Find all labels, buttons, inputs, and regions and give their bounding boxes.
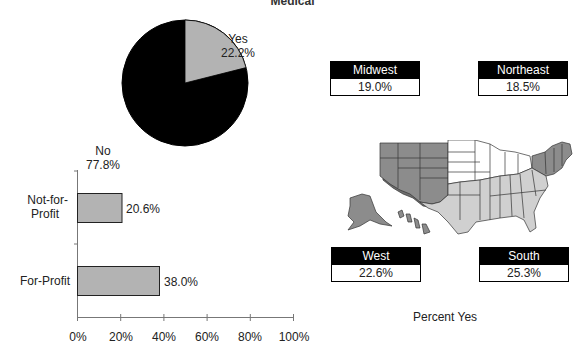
- bar-chart: [60, 165, 300, 325]
- category-line1: Not-for-: [14, 193, 68, 207]
- region-box-south: South 25.3%: [479, 247, 569, 282]
- pie-no-text: No: [78, 144, 128, 158]
- bar-value-for-profit: 38.0%: [164, 275, 198, 289]
- x-tick-60: 60%: [195, 330, 219, 344]
- map-caption: Percent Yes: [413, 310, 477, 324]
- region-value: 18.5%: [479, 79, 567, 95]
- map-state-alaska: [348, 194, 392, 230]
- region-name: South: [480, 248, 568, 265]
- bar-category-for-profit: For-Profit: [10, 274, 70, 288]
- region-name: Midwest: [331, 62, 419, 79]
- region-value: 25.3%: [480, 265, 568, 281]
- bar-value-not-for-profit: 20.6%: [126, 202, 160, 216]
- category-line2: Profit: [14, 207, 68, 221]
- bar-category-not-for-profit: Not-for- Profit: [14, 193, 68, 221]
- bar-for-profit: [78, 267, 160, 296]
- pie-yes-label: Yes 22.2%: [213, 32, 263, 60]
- x-tick-0: 0%: [69, 330, 86, 344]
- region-name: West: [332, 248, 420, 265]
- x-tick-40: 40%: [152, 330, 176, 344]
- chart-title: Medical: [0, 0, 585, 8]
- region-value: 19.0%: [331, 79, 419, 95]
- x-tick-100: 100%: [279, 330, 310, 344]
- bar-not-for-profit: [78, 194, 123, 223]
- x-tick-20: 20%: [109, 330, 133, 344]
- region-box-northeast: Northeast 18.5%: [478, 61, 568, 96]
- pie-yes-value: 22.2%: [213, 46, 263, 60]
- map-region-northeast: [532, 142, 572, 176]
- us-map: [340, 140, 580, 240]
- x-tick-80: 80%: [238, 330, 262, 344]
- region-value: 22.6%: [332, 265, 420, 281]
- map-region-west: [380, 143, 448, 204]
- region-name: Northeast: [479, 62, 567, 79]
- region-box-midwest: Midwest 19.0%: [330, 61, 420, 96]
- region-box-west: West 22.6%: [331, 247, 421, 282]
- pie-yes-text: Yes: [213, 32, 263, 46]
- map-state-hawaii: [398, 210, 430, 234]
